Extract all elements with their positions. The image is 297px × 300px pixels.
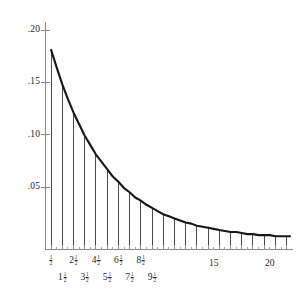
chart-figure: .05.10.15.20 12212412612812 112312512712… bbox=[0, 0, 297, 300]
x-axis-fraction-label: 312 bbox=[80, 272, 89, 284]
x-axis-integer-label: 15 bbox=[209, 258, 219, 268]
fraction-denominator: 2 bbox=[131, 277, 134, 283]
x-axis-fraction-label: 612 bbox=[114, 255, 123, 267]
x-axis-fraction-label: 12 bbox=[49, 255, 52, 267]
x-axis-integer-label: 20 bbox=[265, 258, 275, 268]
fraction-one-half: 12 bbox=[97, 255, 100, 267]
x-axis-fraction-label: 712 bbox=[125, 272, 134, 284]
y-axis-tick-label: .20 bbox=[14, 24, 40, 34]
fraction-denominator: 2 bbox=[119, 260, 122, 266]
fraction-denominator: 2 bbox=[86, 277, 89, 283]
fraction-one-half: 12 bbox=[153, 272, 156, 284]
y-axis-tick-label: .05 bbox=[14, 181, 40, 191]
fraction-denominator: 2 bbox=[97, 260, 100, 266]
fraction-denominator: 2 bbox=[142, 260, 145, 266]
tick-group bbox=[41, 30, 287, 250]
fraction-one-half: 12 bbox=[119, 255, 122, 267]
exponential-decay-curve bbox=[51, 50, 290, 236]
fraction-one-half: 12 bbox=[63, 272, 66, 284]
riemann-line-group bbox=[51, 50, 287, 250]
fraction-one-half: 12 bbox=[108, 272, 111, 284]
x-axis-fraction-label: 412 bbox=[92, 255, 101, 267]
fraction-one-half: 12 bbox=[74, 255, 77, 267]
fraction-denominator: 2 bbox=[63, 277, 66, 283]
fraction-one-half: 12 bbox=[86, 272, 89, 284]
fraction-one-half: 12 bbox=[49, 255, 52, 267]
x-axis-fraction-label: 812 bbox=[137, 255, 146, 267]
x-axis-fraction-label: 112 bbox=[58, 272, 67, 284]
fraction-denominator: 2 bbox=[108, 277, 111, 283]
x-axis-fraction-label: 512 bbox=[103, 272, 112, 284]
y-axis-tick-label: .15 bbox=[14, 76, 40, 86]
fraction-one-half: 12 bbox=[131, 272, 134, 284]
fraction-one-half: 12 bbox=[142, 255, 145, 267]
y-axis-tick-label: .10 bbox=[14, 129, 40, 139]
chart-plot-area bbox=[0, 0, 297, 300]
x-axis-fraction-label: 212 bbox=[69, 255, 78, 267]
x-axis-fraction-label: 912 bbox=[148, 272, 157, 284]
fraction-denominator: 2 bbox=[74, 260, 77, 266]
fraction-denominator: 2 bbox=[153, 277, 156, 283]
fraction-denominator: 2 bbox=[49, 260, 52, 266]
